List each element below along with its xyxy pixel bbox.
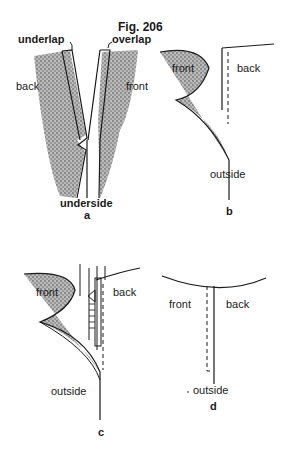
panel-d-drawing (162, 276, 266, 393)
caption-a: a (84, 209, 90, 221)
caption-b: b (226, 205, 233, 217)
label-d-front: front (169, 298, 191, 310)
label-overlap: overlap (112, 33, 151, 45)
label-d-outside: outside (193, 384, 228, 396)
label-c-front: front (36, 286, 58, 298)
label-d-back: back (226, 298, 249, 310)
label-underlap: underlap (18, 33, 64, 45)
label-a-front: front (126, 80, 148, 92)
caption-d: d (210, 400, 217, 412)
label-b-outside: outside (210, 168, 245, 180)
label-a-back: back (16, 80, 39, 92)
label-c-outside: outside (51, 385, 86, 397)
label-underside: underside (60, 197, 113, 209)
caption-c: c (98, 426, 104, 438)
label-b-front: front (172, 62, 194, 74)
label-b-back: back (237, 62, 260, 74)
figure-title: Fig. 206 (118, 20, 163, 34)
panel-a-drawing (34, 42, 138, 198)
label-c-back: back (113, 286, 136, 298)
